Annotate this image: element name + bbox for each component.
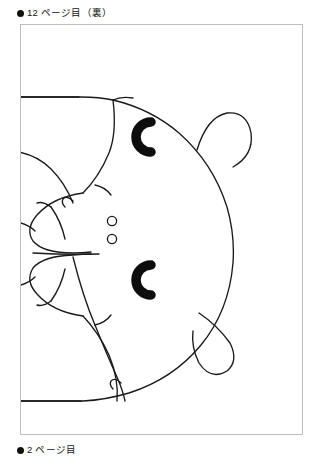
arm-edge-upper (21, 151, 73, 203)
bullet-icon (17, 447, 24, 454)
caption-top: 12 ページ目（裏） (17, 7, 112, 19)
page-root: 12 ページ目（裏） (0, 0, 321, 463)
shoulder-notch (62, 197, 73, 207)
whisker-tick-upper (95, 185, 111, 195)
nostril-lower-icon (107, 234, 116, 243)
bullet-icon (17, 10, 24, 17)
head-top-notch (113, 97, 133, 100)
cheek-contour-upper (83, 100, 114, 193)
arm-join-upper (37, 203, 51, 208)
arm-inner-upper (51, 207, 65, 239)
ear-lower (193, 313, 234, 375)
artwork-canvas (21, 25, 302, 434)
eye-lower-icon (136, 265, 151, 295)
bear-face-illustration (21, 25, 302, 434)
arm-inner-lower (51, 269, 65, 301)
nostril-upper-icon (107, 216, 116, 225)
artwork-frame (20, 24, 303, 435)
eye-upper-icon (136, 122, 151, 152)
head-outline (21, 97, 233, 401)
arm-tip-upper (21, 221, 35, 231)
caption-top-label: 12 ページ目（裏） (27, 7, 112, 19)
caption-bottom-label: 2 ページ目 (27, 444, 76, 456)
caption-bottom: 2 ページ目 (17, 444, 76, 456)
whisker-tick-lower (95, 315, 111, 325)
ear-upper (197, 113, 251, 167)
arm-tip-lower (21, 277, 35, 287)
